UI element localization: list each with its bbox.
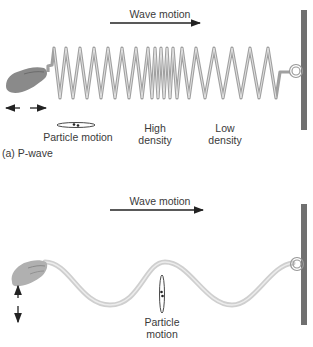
low-density-label-line1: Low	[200, 122, 250, 134]
high-density-label-line1: High	[130, 122, 180, 134]
hand-b-icon	[12, 260, 48, 286]
particle-motion-label-b-line1: Particle	[137, 316, 187, 328]
panel-a-title: (a) P-wave	[2, 147, 53, 159]
particle-motion-ellipse-a	[57, 123, 95, 128]
hand-a-icon	[6, 67, 47, 93]
wave-motion-label-b: Wave motion	[120, 195, 200, 207]
low-density-label-line2: density	[200, 134, 250, 146]
wave-motion-label-a: Wave motion	[120, 8, 200, 20]
spring-coil	[48, 48, 290, 98]
high-density-label-line2: density	[130, 134, 180, 146]
particle-motion-label-b-line2: motion	[137, 328, 187, 340]
diagram-canvas	[0, 0, 313, 347]
attachment-ring-a	[290, 65, 303, 78]
particle-motion-ellipse-b	[160, 275, 165, 313]
rope-wave	[45, 262, 293, 305]
attachment-ring-b	[291, 258, 304, 271]
particle-motion-label-a: Particle motion	[36, 131, 120, 143]
